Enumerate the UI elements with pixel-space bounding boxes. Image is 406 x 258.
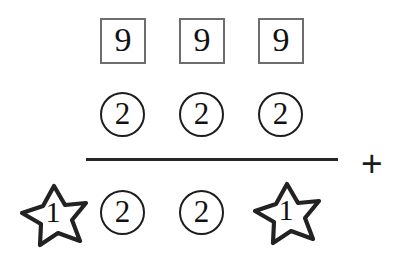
horizontal-sum-rule: [86, 158, 338, 161]
sum-circle-token-2: 2: [179, 190, 224, 235]
sum-circle-token-1-value: 2: [115, 196, 131, 227]
star-token-2-value: 1: [279, 195, 294, 225]
circle-token-3: 2: [258, 92, 303, 137]
square-token-3: 9: [258, 18, 304, 64]
circle-token-2: 2: [179, 92, 224, 137]
plus-operator: +: [361, 145, 383, 182]
star-token-2: 1: [251, 178, 321, 246]
square-token-2: 9: [179, 18, 225, 64]
square-token-1: 9: [100, 18, 146, 64]
circle-token-2-value: 2: [194, 98, 210, 129]
circle-token-3-value: 2: [273, 98, 289, 129]
diagram-canvas: 9 9 9 2 2 2 + 1 2 2 1: [0, 0, 406, 258]
circle-token-1: 2: [100, 92, 145, 137]
square-token-1-value: 9: [115, 23, 132, 57]
square-token-3-value: 9: [273, 23, 290, 57]
star-token-1: 1: [18, 180, 88, 248]
sum-circle-token-1: 2: [100, 190, 145, 235]
circle-token-1-value: 2: [115, 98, 131, 129]
square-token-2-value: 9: [194, 23, 211, 57]
star-token-1-value: 1: [46, 197, 61, 227]
sum-circle-token-2-value: 2: [194, 196, 210, 227]
